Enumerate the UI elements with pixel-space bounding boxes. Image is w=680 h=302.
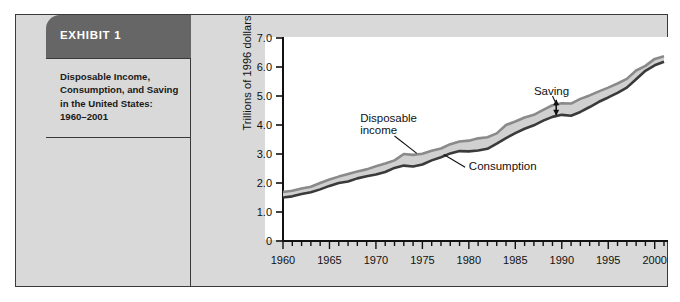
caption-column: EXHIBIT 1 Disposable Income, Consumption…	[16, 15, 191, 286]
chart-canvas: 7.06.05.04.03.02.01.00196019651970197519…	[192, 15, 680, 288]
caption-notch	[16, 15, 47, 59]
exhibit-header-bar: EXHIBIT 1	[46, 15, 191, 59]
x-tick-label: 1965	[317, 254, 341, 266]
annotation-consumption: Consumption	[469, 160, 537, 172]
caption-line-1: Disposable Income,	[60, 70, 179, 83]
annotation-disposable-income: Disposable	[360, 112, 417, 124]
annotation-saving: Saving	[534, 85, 569, 97]
exhibit-number-label: EXHIBIT 1	[60, 29, 121, 41]
x-tick-label: 2000	[642, 254, 666, 266]
x-tick-label: 1990	[550, 254, 574, 266]
leader-line-disposable-income	[395, 136, 417, 153]
exhibit-caption: Disposable Income, Consumption, and Savi…	[46, 59, 191, 138]
x-tick-label: 1960	[271, 254, 295, 266]
y-tick-label: 5.0	[257, 90, 272, 102]
caption-line-3: in the United States:	[60, 97, 179, 110]
y-tick-label: 1.0	[257, 206, 272, 218]
x-tick-label: 1980	[457, 254, 481, 266]
y-tick-label: 2.0	[257, 177, 272, 189]
x-tick-label: 1975	[410, 254, 434, 266]
chart-column: Trillions of 1996 dollars 7.06.05.04.03.…	[192, 15, 667, 286]
y-tick-label: 4.0	[257, 119, 272, 131]
x-tick-label: 1995	[596, 254, 620, 266]
y-tick-label: 0	[266, 235, 272, 247]
leader-line-saving	[552, 96, 555, 102]
annotation-disposable-income-cont: income	[360, 124, 397, 136]
caption-line-2: Consumption, and Saving	[60, 83, 179, 96]
x-tick-label: 1985	[503, 254, 527, 266]
y-tick-label: 3.0	[257, 148, 272, 160]
y-tick-label: 7.0	[257, 32, 272, 44]
x-tick-label: 1970	[364, 254, 388, 266]
leader-line-consumption	[444, 155, 465, 168]
exhibit-figure: EXHIBIT 1 Disposable Income, Consumption…	[0, 0, 680, 302]
caption-line-4: 1960–2001	[60, 110, 179, 123]
exhibit-frame: EXHIBIT 1 Disposable Income, Consumption…	[15, 14, 668, 287]
y-tick-label: 6.0	[257, 61, 272, 73]
